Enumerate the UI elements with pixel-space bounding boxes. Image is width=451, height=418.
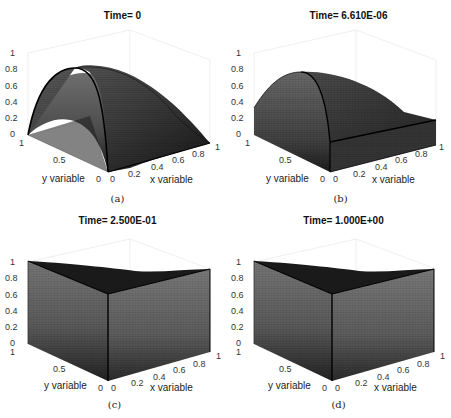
svg-text:0.8: 0.8 (5, 273, 18, 283)
svg-text:0.2: 0.2 (355, 378, 368, 388)
svg-text:1: 1 (10, 257, 15, 267)
x-axis-label: x variable (372, 174, 415, 185)
panel-b: 1 0.8 0.6 0.4 0.2 0 1 0.5 0 0 0.2 0.4 0.… (226, 0, 451, 209)
svg-text:0: 0 (333, 174, 338, 184)
svg-text:0.2: 0.2 (353, 169, 366, 179)
svg-text:0.6: 0.6 (5, 81, 18, 91)
svg-text:0.8: 0.8 (192, 149, 205, 159)
svg-text:0.2: 0.2 (5, 322, 18, 332)
svg-text:0.6: 0.6 (173, 365, 186, 375)
panel-title: Time= 0 (10, 10, 235, 21)
svg-text:0.6: 0.6 (5, 290, 18, 300)
y-axis-label: y variable (42, 173, 85, 184)
svg-text:0.4: 0.4 (5, 306, 18, 316)
panel-caption: (c) (2, 399, 227, 410)
svg-text:1: 1 (10, 48, 15, 58)
panel-title: Time= 1.000E+00 (231, 215, 451, 226)
surface-plot-d: 1 0.8 0.6 0.4 0.2 0 1 0.5 0 0 0.2 0.4 0.… (226, 209, 451, 418)
svg-text:1: 1 (236, 257, 241, 267)
panel-d: 1 0.8 0.6 0.4 0.2 0 1 0.5 0 0 0.2 0.4 0.… (226, 209, 451, 418)
svg-text:0.4: 0.4 (231, 306, 244, 316)
y-axis-label: y variable (266, 173, 309, 184)
svg-text:0.4: 0.4 (153, 372, 166, 382)
panel-title: Time= 2.500E-01 (5, 215, 230, 226)
svg-text:0.6: 0.6 (231, 81, 244, 91)
panel-caption: (a) (5, 193, 230, 204)
svg-text:0.4: 0.4 (375, 162, 388, 172)
svg-text:0.2: 0.2 (231, 322, 244, 332)
svg-text:0: 0 (322, 383, 327, 393)
svg-text:0.4: 0.4 (151, 162, 164, 172)
svg-text:1: 1 (19, 138, 24, 148)
svg-text:0.4: 0.4 (231, 97, 244, 107)
svg-text:0.5: 0.5 (53, 155, 66, 165)
svg-text:0.5: 0.5 (279, 364, 292, 374)
svg-text:0.8: 0.8 (231, 273, 244, 283)
svg-text:0.6: 0.6 (395, 155, 408, 165)
svg-text:0.8: 0.8 (231, 64, 244, 74)
surface-plot-a: 1 0.8 0.6 0.4 0.2 0 1 0.5 0 0 0.2 0.4 0.… (0, 0, 225, 209)
surface-plot-b: 1 0.8 0.6 0.4 0.2 0 1 0.5 0 0 0.2 0.4 0.… (226, 0, 451, 209)
panel-a: 1 0.8 0.6 0.4 0.2 0 1 0.5 0 0 0.2 0.4 0.… (0, 0, 225, 209)
svg-text:0.8: 0.8 (193, 359, 206, 369)
svg-text:0: 0 (98, 383, 103, 393)
svg-text:1: 1 (439, 142, 444, 152)
svg-text:0: 0 (236, 129, 241, 139)
svg-text:1: 1 (236, 347, 241, 357)
z-axis-ticks: 1 0.8 0.6 0.4 0.2 0 (5, 48, 18, 139)
svg-text:1: 1 (216, 351, 221, 361)
y-axis-label: y variable (44, 380, 87, 391)
panel-caption: (b) (228, 193, 451, 204)
x-axis-label: x variable (150, 382, 193, 393)
svg-text:0: 0 (320, 174, 325, 184)
x-axis-label: x variable (150, 174, 193, 185)
svg-text:0: 0 (111, 383, 116, 393)
panel-c: 1 0.8 0.6 0.4 0.2 0 1 0.5 0 0 0.2 0.4 0.… (0, 209, 225, 418)
svg-text:1: 1 (236, 48, 241, 58)
svg-text:0.4: 0.4 (5, 97, 18, 107)
svg-text:0.8: 0.8 (415, 149, 428, 159)
svg-text:0.6: 0.6 (172, 155, 185, 165)
svg-text:0.4: 0.4 (377, 372, 390, 382)
svg-text:0.8: 0.8 (5, 64, 18, 74)
svg-text:0: 0 (110, 174, 115, 184)
svg-text:0.2: 0.2 (231, 113, 244, 123)
panel-title: Time= 6.610E-06 (236, 10, 451, 21)
svg-text:0: 0 (96, 174, 101, 184)
svg-text:0.2: 0.2 (131, 378, 144, 388)
svg-text:0.6: 0.6 (231, 290, 244, 300)
svg-text:1: 1 (440, 351, 445, 361)
svg-text:0.2: 0.2 (5, 113, 18, 123)
svg-text:1: 1 (245, 138, 250, 148)
svg-text:0.8: 0.8 (417, 359, 430, 369)
svg-text:1: 1 (215, 142, 220, 152)
y-axis-label: y variable (268, 380, 311, 391)
svg-text:1: 1 (10, 347, 15, 357)
svg-text:0.5: 0.5 (53, 364, 66, 374)
surface-plot-c: 1 0.8 0.6 0.4 0.2 0 1 0.5 0 0 0.2 0.4 0.… (0, 209, 225, 418)
svg-text:0.5: 0.5 (279, 155, 292, 165)
svg-text:0: 0 (10, 129, 15, 139)
panel-caption: (d) (226, 399, 451, 410)
svg-text:0.2: 0.2 (128, 169, 141, 179)
svg-text:0.6: 0.6 (397, 365, 410, 375)
svg-text:0: 0 (335, 383, 340, 393)
x-axis-label: x variable (374, 382, 417, 393)
